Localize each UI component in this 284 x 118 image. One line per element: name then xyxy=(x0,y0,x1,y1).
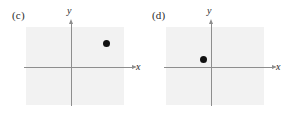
y-axis-line-c xyxy=(71,24,72,106)
x-axis-line-d xyxy=(164,67,272,68)
data-point-d xyxy=(200,56,207,63)
y-axis-line-d xyxy=(211,24,212,106)
data-point-c xyxy=(103,40,110,47)
y-axis-label-c: y xyxy=(67,5,71,16)
y-axis-arrowhead-icon-d xyxy=(209,19,213,24)
plot-area-d xyxy=(166,27,264,105)
y-axis-arrowhead-icon-c xyxy=(69,19,73,24)
y-axis-label-d: y xyxy=(207,5,211,16)
panel-label-c: (c) xyxy=(12,9,25,21)
plot-area-c xyxy=(26,27,124,105)
panel-c: (c) y x xyxy=(0,0,142,118)
panel-label-d: (d) xyxy=(152,9,165,21)
x-axis-label-d: x xyxy=(276,61,280,72)
x-axis-label-c: x xyxy=(136,61,140,72)
panel-d: (d) y x xyxy=(142,0,284,118)
x-axis-line-c xyxy=(24,67,132,68)
figure-container: (c) y x (d) y x xyxy=(0,0,284,118)
